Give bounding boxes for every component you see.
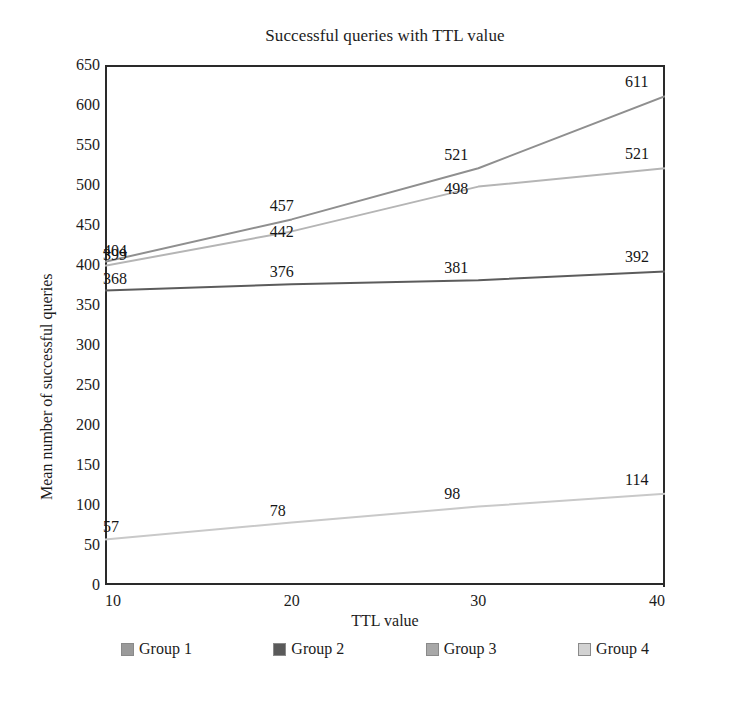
legend-swatch-icon — [273, 643, 286, 656]
legend-item[interactable]: Group 4 — [578, 640, 649, 658]
series-line — [105, 494, 665, 540]
x-axis-tick-label: 10 — [93, 592, 133, 610]
legend-item[interactable]: Group 1 — [121, 640, 192, 658]
data-point-label: 521 — [444, 147, 468, 163]
y-axis-tick-label: 50 — [54, 537, 100, 553]
series-line — [105, 271, 665, 290]
data-point-label: 114 — [625, 472, 648, 488]
series-line — [105, 96, 665, 262]
legend-swatch-icon — [121, 643, 134, 656]
figure-caption — [40, 700, 690, 710]
x-axis-title: TTL value — [105, 612, 665, 630]
data-point-label: 57 — [103, 519, 119, 535]
legend-swatch-icon — [426, 643, 439, 656]
y-axis-tick-label: 200 — [54, 417, 100, 433]
legend-item[interactable]: Group 3 — [426, 640, 497, 658]
x-axis-tick-label: 20 — [272, 592, 312, 610]
legend-label: Group 4 — [596, 640, 649, 658]
data-point-label: 399 — [103, 247, 127, 263]
data-point-label: 442 — [270, 224, 294, 240]
chart-figure: Successful queries with TTL value Mean n… — [0, 0, 730, 710]
data-point-label: 457 — [270, 198, 294, 214]
legend-swatch-icon — [578, 643, 591, 656]
data-point-label: 376 — [270, 264, 294, 280]
y-axis-tick-label: 250 — [54, 377, 100, 393]
data-point-label: 368 — [103, 271, 127, 287]
y-axis-tick-label: 450 — [54, 217, 100, 233]
data-point-label: 381 — [444, 260, 468, 276]
y-axis-tick-label: 400 — [54, 257, 100, 273]
data-point-label: 521 — [625, 146, 649, 162]
data-point-label: 78 — [270, 503, 286, 519]
y-axis-tick-label: 550 — [54, 137, 100, 153]
legend-label: Group 3 — [444, 640, 497, 658]
y-axis-tick-label: 500 — [54, 177, 100, 193]
y-axis-tick-label: 0 — [54, 577, 100, 593]
series-lines — [105, 65, 665, 585]
legend-label: Group 2 — [291, 640, 344, 658]
series-line — [105, 168, 665, 266]
chart-title: Successful queries with TTL value — [105, 26, 665, 46]
y-axis-tick-label: 350 — [54, 297, 100, 313]
data-point-label: 98 — [444, 486, 460, 502]
y-axis-tick-label: 150 — [54, 457, 100, 473]
y-axis-tick-label: 300 — [54, 337, 100, 353]
data-point-label: 611 — [625, 74, 648, 90]
legend-label: Group 1 — [139, 640, 192, 658]
chart-legend: Group 1Group 2Group 3Group 4 — [105, 640, 665, 658]
y-axis-tick-label: 650 — [54, 57, 100, 73]
x-axis-tick-label: 30 — [458, 592, 498, 610]
legend-item[interactable]: Group 2 — [273, 640, 344, 658]
y-axis-tick-label: 600 — [54, 97, 100, 113]
data-point-label: 498 — [444, 181, 468, 197]
y-axis-tick-label: 100 — [54, 497, 100, 513]
data-point-label: 392 — [625, 249, 649, 265]
x-axis-tick-label: 40 — [637, 592, 677, 610]
